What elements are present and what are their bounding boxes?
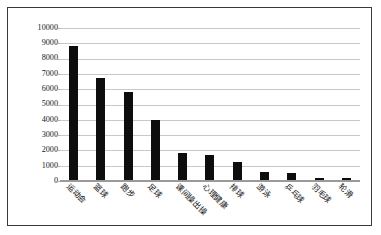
bar-cell (305, 28, 332, 181)
plot-area (60, 28, 360, 181)
y-tick-label: 9000 (24, 39, 58, 47)
bar-cell (169, 28, 196, 181)
x-axis-line (60, 180, 360, 181)
bar (205, 155, 214, 181)
x-label-cell: 课间操出操 (169, 182, 196, 227)
y-tick-label: 3000 (24, 131, 58, 139)
y-tick-label: 1000 (24, 162, 58, 170)
bar-series (60, 28, 360, 181)
bar-cell (142, 28, 169, 181)
x-label-cell: 运动会 (60, 182, 87, 227)
y-tick-label: 10000 (24, 24, 58, 32)
x-tick-label: 羽毛球 (309, 183, 332, 206)
bar (178, 153, 187, 181)
x-label-cell: 篮球 (87, 182, 114, 227)
x-tick-label: 轮滑 (336, 183, 353, 200)
bar (124, 92, 133, 181)
x-label-cell: 跑步 (115, 182, 142, 227)
bar-cell (278, 28, 305, 181)
y-tick-label: 6000 (24, 85, 58, 93)
x-tick-label: 篮球 (91, 183, 108, 200)
x-label-cell: 乒乓球 (278, 182, 305, 227)
y-tick-label: 4000 (24, 116, 58, 124)
chart-plot-wrapper: 1000090008000700060005000400030002000100… (8, 8, 373, 227)
bar-cell (115, 28, 142, 181)
chart-frame: 1000090008000700060005000400030002000100… (7, 7, 372, 226)
x-label-cell: 羽毛球 (305, 182, 332, 227)
x-label-cell: 轮滑 (333, 182, 360, 227)
x-tick-label: 排球 (227, 183, 244, 200)
y-tick-label: 7000 (24, 70, 58, 78)
bar-cell (87, 28, 114, 181)
bar-cell (224, 28, 251, 181)
bar-cell (251, 28, 278, 181)
y-tick-label: 5000 (24, 100, 58, 108)
x-axis-labels: 运动会篮球跑步足球课间操出操心理健康排球游泳乒乓球羽毛球轮滑 (60, 182, 360, 227)
x-label-cell: 游泳 (251, 182, 278, 227)
bar (233, 162, 242, 181)
bar-cell (196, 28, 223, 181)
bar (151, 120, 160, 181)
x-tick-label: 运动会 (64, 183, 87, 206)
y-tick-label: 2000 (24, 146, 58, 154)
bar-cell (60, 28, 87, 181)
x-tick-label: 乒乓球 (282, 183, 305, 206)
bar (96, 78, 105, 181)
x-tick-label: 游泳 (255, 183, 272, 200)
y-tick-label: 8000 (24, 54, 58, 62)
x-tick-label: 跑步 (118, 183, 135, 200)
y-tick-label: 0 (24, 177, 58, 185)
bar-cell (333, 28, 360, 181)
x-tick-label: 足球 (146, 183, 163, 200)
x-label-cell: 足球 (142, 182, 169, 227)
bar (69, 46, 78, 181)
x-label-cell: 排球 (224, 182, 251, 227)
y-axis: 1000090008000700060005000400030002000100… (22, 8, 58, 227)
x-label-cell: 心理健康 (196, 182, 223, 227)
